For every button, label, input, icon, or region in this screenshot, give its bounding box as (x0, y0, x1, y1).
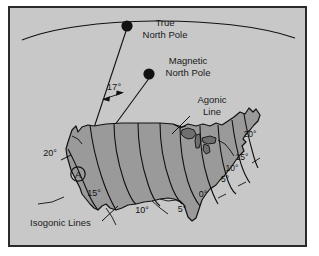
magnetic-north-pole-dot (143, 68, 154, 79)
isogonic-lines-label: Isogonic Lines (30, 217, 91, 228)
true-north-pole-label-line2: North Pole (143, 29, 188, 40)
declination-angle-label: 17° (107, 81, 122, 92)
point-a-label: A (75, 170, 81, 180)
isogonic-label-south-10: 10° (135, 205, 149, 215)
isogonic-label-south-0: 0° (199, 189, 208, 199)
true-north-pole-label-line1: True (155, 17, 174, 28)
pacific-offshore (38, 197, 64, 204)
magnetic-north-pole-label-line1: Magnetic (169, 55, 208, 66)
isogonic-label-east-15: 15° (236, 152, 249, 162)
isogonic-label-west-15: 15° (87, 188, 101, 198)
isogonic-map-figure: A True North Pole Magnetic North Pole Ag… (10, 8, 305, 245)
agonic-line-label-line1: Agonic (197, 94, 226, 105)
isogonic-label-east-10: 10° (226, 163, 239, 173)
true-north-pole-dot (121, 20, 132, 31)
agonic-line-label-line2: Line (203, 106, 221, 117)
isogonic-label-east-5: 5° (221, 174, 229, 184)
isogonic-label-south-5: 5° (178, 204, 187, 214)
lake-erie-ontario (202, 136, 216, 144)
mexico-border-detail (152, 201, 168, 214)
isogonic-label-east-20: 20° (244, 129, 257, 139)
isogonic-label-west-20: 20° (43, 148, 57, 158)
figure-frame: A True North Pole Magnetic North Pole Ag… (8, 6, 307, 247)
atlantic-offshore-2 (238, 182, 246, 186)
atlantic-offshore-3 (218, 194, 226, 198)
magnetic-north-pole-label-line2: North Pole (166, 67, 211, 78)
figure-page: A True North Pole Magnetic North Pole Ag… (0, 0, 319, 256)
